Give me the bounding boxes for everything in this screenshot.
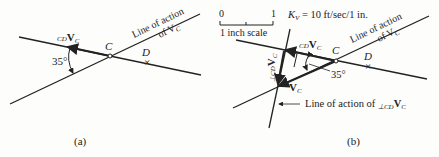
panel-a: × 35° C D CDVC Line of action of VC (a) (10, 5, 201, 148)
panel-b: 0 1 1 inch scale KV = 10 ft/sec/1 in. 35… (219, 8, 429, 148)
vc-label-b: VC (289, 81, 302, 95)
cd-vc-vector (68, 47, 110, 56)
point-d-label: D (141, 46, 150, 58)
angle-label: 35° (52, 55, 67, 67)
point-c-label-b: C (332, 44, 340, 56)
scale-one: 1 (271, 8, 276, 19)
cd-vc-vector-b (286, 50, 336, 61)
angle-label-b: 35° (331, 69, 346, 80)
velocity-diagram-figure: × 35° C D CDVC Line of action of VC (a) … (0, 0, 439, 157)
caption-b: (b) (347, 135, 360, 148)
angle-arc-b (306, 57, 308, 70)
caption-a: (a) (74, 135, 87, 148)
scale-zero: 0 (219, 8, 224, 19)
right-angle-mark (284, 51, 297, 67)
vc-vector-b (279, 61, 336, 86)
scale-label: 1 inch scale (220, 27, 268, 38)
perp-line-label: Line of action of ⊥CDVC (305, 98, 406, 111)
point-d-label-b: D (363, 50, 372, 62)
point-c-marker (108, 54, 112, 58)
cd-vc-label: CDVC (57, 31, 80, 45)
diagram-svg: × 35° C D CDVC Line of action of VC (a) … (0, 0, 439, 157)
point-c-marker-b (334, 59, 338, 63)
perp-cd-vc-label: ⊥CDVC (265, 53, 279, 82)
scale-bar (220, 21, 273, 25)
angle-arc (69, 48, 73, 73)
cd-vc-label-b: CDVC (299, 38, 322, 52)
point-c-label: C (105, 40, 113, 52)
kv-label: KV = 10 ft/sec/1 in. (287, 9, 368, 22)
